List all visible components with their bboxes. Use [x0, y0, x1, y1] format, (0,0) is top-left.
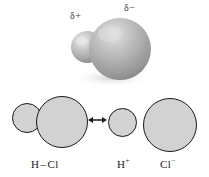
hcl-polarity-figure: δ+ δ− H–Cl H+ Cl− [0, 0, 209, 177]
chlorine-highlight [98, 26, 122, 42]
delta-minus-label: δ− [124, 2, 135, 13]
space-filling-svg [0, 0, 209, 90]
chlorine-sphere [89, 18, 151, 80]
delta-plus-label: δ+ [70, 10, 81, 21]
chloride-ion-circle [143, 98, 197, 152]
double-headed-arrow-icon [88, 113, 107, 127]
label-hydrogen-ion: H+ [117, 158, 130, 170]
label-cl-ion-charge: − [171, 157, 175, 165]
label-cl-ion-element: Cl [160, 158, 171, 170]
resonance-structures: H–Cl H+ Cl− [0, 90, 209, 177]
hydrogen-highlight [76, 37, 88, 46]
hcl-space-filling-model: δ+ δ− [0, 0, 209, 90]
chlorine-circle [36, 96, 88, 148]
hydrogen-ion-circle [108, 108, 137, 137]
label-h-ion-charge: + [125, 157, 129, 165]
label-covalent-hcl: H–Cl [31, 158, 59, 170]
label-chloride-ion: Cl− [160, 158, 176, 170]
label-cl-atom: Cl [47, 158, 58, 170]
